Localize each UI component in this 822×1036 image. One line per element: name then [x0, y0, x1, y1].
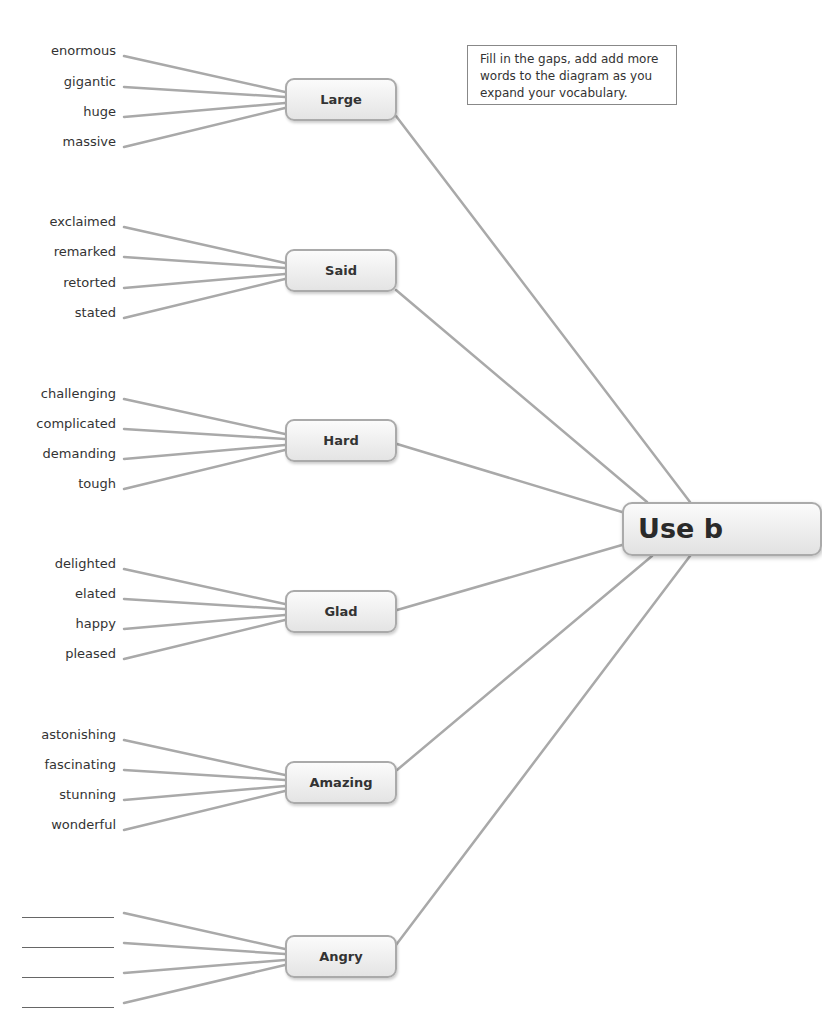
node-amazing: Amazing [285, 761, 397, 804]
word-tough: tough [78, 476, 116, 492]
blank-answer-line-3[interactable] [22, 977, 114, 978]
word-fascinating: fascinating [45, 757, 116, 773]
word-happy: happy [76, 616, 116, 632]
word-pleased: pleased [65, 646, 116, 662]
node-angry: Angry [285, 935, 397, 978]
blank-answer-line-2[interactable] [22, 947, 114, 948]
word-elated: elated [75, 586, 116, 602]
word-retorted: retorted [63, 275, 116, 291]
word-demanding: demanding [43, 446, 116, 462]
central-node: Use b [622, 502, 822, 556]
blank-answer-line-1[interactable] [22, 917, 114, 918]
word-complicated: complicated [36, 416, 116, 432]
node-large: Large [285, 78, 397, 121]
node-said: Said [285, 249, 397, 292]
blank-answer-line-4[interactable] [22, 1007, 114, 1008]
word-wonderful: wonderful [51, 817, 116, 833]
word-gigantic: gigantic [64, 74, 116, 90]
word-astonishing: astonishing [41, 727, 116, 743]
node-hard: Hard [285, 419, 397, 462]
word-huge: huge [83, 104, 116, 120]
word-remarked: remarked [54, 244, 116, 260]
word-massive: massive [63, 134, 116, 150]
word-stunning: stunning [59, 787, 116, 803]
node-glad: Glad [285, 590, 397, 633]
word-enormous: enormous [51, 43, 116, 59]
word-challenging: challenging [41, 386, 116, 402]
word-exclaimed: exclaimed [50, 214, 117, 230]
word-delighted: delighted [55, 556, 116, 572]
instruction-note: Fill in the gaps, add add more words to … [467, 45, 677, 105]
word-stated: stated [75, 305, 116, 321]
